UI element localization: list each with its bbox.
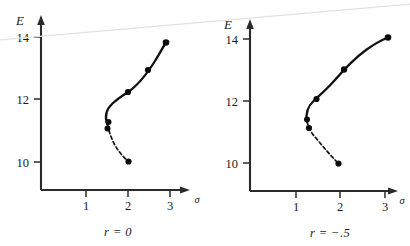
right-y-axis-arrowhead	[246, 19, 254, 29]
figure-root: 14 12 10 1 2 3 E σ r = 0	[0, 0, 410, 246]
right-upper-branch-curve	[307, 38, 388, 122]
left-panel-caption: r = 0	[104, 225, 132, 239]
left-xtick-label-2: 2	[125, 199, 131, 213]
right-ytick-label-12: 12	[226, 95, 239, 109]
left-xtick-label-1: 1	[83, 199, 89, 213]
right-xtick-label-2: 2	[337, 200, 343, 214]
right-x-axis-arrowhead	[388, 187, 398, 194]
left-y-axis-title: E	[15, 13, 24, 28]
left-data-point-5	[163, 39, 170, 46]
scan-line-artifact	[0, 4, 410, 40]
left-data-point-3	[125, 89, 131, 95]
left-x-axis-title: σ	[194, 194, 200, 205]
left-data-point-6	[125, 158, 131, 164]
right-data-point-1	[304, 117, 310, 123]
left-data-point-1	[105, 126, 111, 132]
left-data-point-4	[145, 67, 151, 73]
right-data-point-4	[341, 66, 347, 72]
right-ytick-label-10: 10	[226, 157, 239, 171]
panel-left: 14 12 10 1 2 3 E σ r = 0	[15, 13, 200, 239]
left-y-axis-arrowhead	[37, 15, 45, 25]
left-lower-branch-curve	[108, 125, 129, 162]
plot-canvas: 14 12 10 1 2 3 E σ r = 0	[0, 0, 410, 246]
left-data-point-2	[106, 119, 112, 125]
panel-right: 14 12 10 1 2 3 E σ r = −.5	[223, 17, 405, 240]
right-data-point-5	[385, 34, 392, 41]
right-panel-caption: r = −.5	[310, 226, 350, 240]
left-x-axis-arrowhead	[180, 186, 190, 193]
right-data-point-6	[335, 160, 341, 166]
right-data-point-2	[306, 125, 312, 131]
right-data-point-3	[313, 96, 319, 102]
right-ytick-label-14: 14	[226, 33, 239, 47]
right-xtick-label-1: 1	[293, 200, 299, 214]
right-xtick-label-3: 3	[382, 200, 388, 214]
left-xtick-label-3: 3	[167, 199, 173, 213]
left-ytick-label-12: 12	[17, 93, 30, 107]
left-ytick-label-10: 10	[17, 156, 30, 170]
right-x-axis-title: σ	[399, 195, 405, 206]
left-upper-branch-curve	[106, 43, 166, 125]
